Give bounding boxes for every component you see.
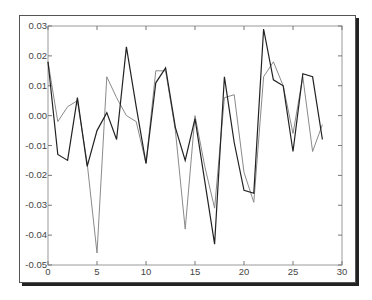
y-tick-label: 0.03 (29, 20, 48, 31)
y-tick-label: -0.03 (25, 199, 47, 210)
x-tick-label: 25 (288, 266, 299, 277)
y-tick-label: -0.05 (25, 259, 47, 270)
y-tick-label: 0.00 (29, 110, 48, 121)
x-tick-label: 20 (239, 266, 250, 277)
y-tick-label: 0.02 (29, 50, 48, 61)
y-tick-label: 0.01 (29, 80, 48, 91)
x-tick-label: 30 (337, 266, 348, 277)
y-tick-label: -0.01 (25, 140, 47, 151)
line-chart: 0510152025300.030.020.010.00-0.01-0.02-0… (0, 0, 372, 300)
y-tick-label: -0.02 (25, 169, 47, 180)
plot-area (48, 26, 342, 265)
x-tick-label: 15 (190, 266, 201, 277)
x-tick-label: 10 (141, 266, 152, 277)
x-tick-label: 5 (94, 266, 99, 277)
y-tick-label: -0.04 (25, 229, 47, 240)
